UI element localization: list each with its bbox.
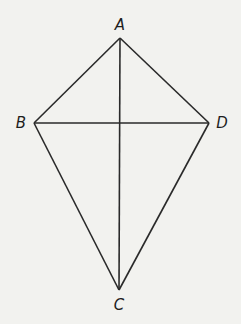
side-BC: [34, 123, 119, 290]
side-AB: [34, 38, 120, 123]
diagonal-AC: [119, 38, 120, 290]
side-DC: [119, 123, 209, 290]
vertex-label-b: B: [16, 114, 26, 132]
vertex-label-a: A: [114, 16, 125, 34]
kite-figure: ABDC: [0, 0, 241, 324]
vertex-label-d: D: [216, 114, 228, 132]
vertex-label-c: C: [114, 296, 125, 314]
kite-diagram: ABDC: [0, 0, 241, 324]
side-AD: [120, 38, 209, 123]
